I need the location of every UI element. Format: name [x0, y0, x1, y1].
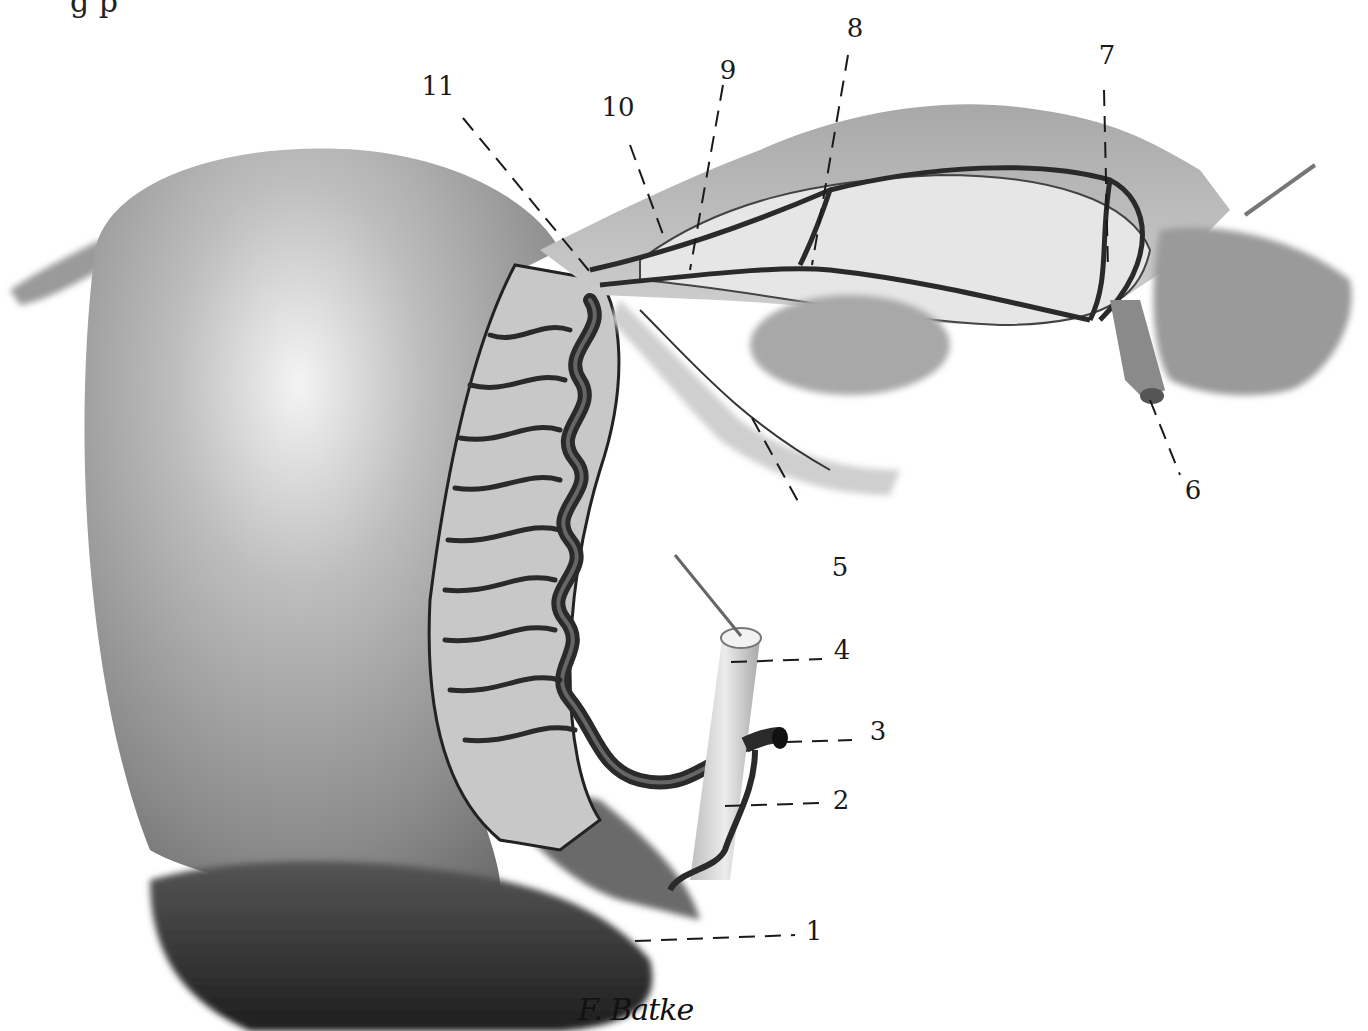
label-7: 7 [1099, 42, 1116, 68]
ureter [675, 555, 761, 880]
label-1: 1 [806, 918, 823, 944]
fimbriae [1153, 227, 1351, 395]
label-8: 8 [847, 15, 864, 41]
leader-line-3 [786, 740, 852, 742]
label-3: 3 [870, 718, 887, 744]
probe-tube [1245, 165, 1315, 215]
label-11: 11 [421, 73, 454, 99]
uterine-tube [540, 104, 1230, 325]
label-9: 9 [720, 57, 737, 83]
anatomical-illustration: g p [0, 0, 1368, 1031]
artist-signature: F. Batke [578, 992, 693, 1027]
clipped-header-text: g p [70, 0, 118, 19]
illustration-drawing [0, 0, 1368, 1031]
leader-line-1 [635, 935, 795, 941]
label-6: 6 [1185, 477, 1202, 503]
label-5: 5 [832, 554, 849, 580]
label-4: 4 [834, 637, 851, 663]
label-2: 2 [833, 787, 850, 813]
label-10: 10 [601, 94, 634, 120]
ovary [750, 295, 950, 395]
leader-line-6 [1150, 400, 1180, 475]
artery-stump [745, 727, 788, 749]
